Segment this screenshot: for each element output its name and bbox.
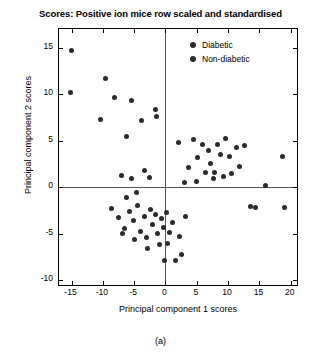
- y-tick-label: 0: [25, 180, 53, 190]
- data-point: [129, 98, 134, 103]
- data-point: [179, 252, 184, 257]
- y-axis-tick: [59, 141, 63, 142]
- data-point: [165, 241, 170, 246]
- data-point: [177, 234, 182, 239]
- data-point: [153, 212, 158, 217]
- data-point: [131, 218, 136, 223]
- data-point: [153, 107, 158, 112]
- plot-area: [58, 28, 298, 286]
- data-point: [242, 143, 247, 148]
- data-point: [227, 154, 232, 159]
- data-point: [144, 235, 149, 240]
- data-point: [234, 145, 239, 150]
- x-axis-tick: [72, 29, 73, 33]
- data-point: [200, 142, 205, 147]
- y-axis-tick: [293, 141, 297, 142]
- scatter-plot-figure: Scores: Positive ion mice row scaled and…: [0, 0, 321, 363]
- x-axis-tick: [103, 29, 104, 33]
- x-axis-tick: [291, 281, 292, 285]
- data-point: [68, 90, 73, 95]
- legend-marker-icon: [190, 42, 196, 48]
- data-point: [223, 136, 228, 141]
- data-point: [167, 230, 172, 235]
- data-point: [154, 114, 159, 119]
- data-point: [148, 207, 153, 212]
- legend-item-non-diabetic: Non-diabetic: [190, 52, 250, 66]
- data-point: [138, 229, 143, 234]
- data-point: [164, 210, 169, 215]
- data-point: [139, 118, 144, 123]
- data-point: [229, 171, 234, 176]
- data-point: [194, 179, 199, 184]
- horizontal-reference-line: [59, 187, 297, 188]
- y-axis-tick: [293, 280, 297, 281]
- x-tick-label: 15: [243, 287, 273, 297]
- data-point: [124, 134, 129, 139]
- legend: Diabetic Non-diabetic: [190, 38, 250, 66]
- legend-label-non-diabetic: Non-diabetic: [202, 54, 250, 64]
- data-point: [112, 95, 117, 100]
- data-point: [129, 176, 134, 181]
- x-tick-label: 5: [181, 287, 211, 297]
- data-point: [155, 231, 160, 236]
- data-point: [122, 226, 127, 231]
- data-point: [212, 170, 217, 175]
- x-axis-tick: [197, 29, 198, 33]
- legend-marker-icon: [190, 56, 196, 62]
- data-point: [176, 140, 181, 145]
- data-point: [135, 203, 140, 208]
- y-tick-label: 15: [25, 41, 53, 51]
- data-point: [145, 246, 150, 251]
- data-point: [134, 190, 139, 195]
- data-point: [124, 195, 129, 200]
- data-point: [211, 176, 216, 181]
- data-point: [120, 231, 125, 236]
- y-axis-tick: [59, 187, 63, 188]
- data-point: [161, 225, 166, 230]
- vertical-reference-line: [165, 29, 166, 285]
- x-axis-tick: [134, 29, 135, 33]
- y-axis-tick: [293, 94, 297, 95]
- data-point: [116, 215, 121, 220]
- y-tick-label: 10: [25, 87, 53, 97]
- y-axis-tick: [59, 94, 63, 95]
- data-point: [182, 180, 187, 185]
- data-point: [208, 161, 213, 166]
- data-point: [69, 48, 74, 53]
- x-axis-tick: [165, 281, 166, 285]
- data-point: [150, 222, 155, 227]
- x-axis-tick: [291, 29, 292, 33]
- data-point: [248, 204, 253, 209]
- data-point: [147, 175, 152, 180]
- y-tick-label: -5: [25, 227, 53, 237]
- y-tick-label: 5: [25, 134, 53, 144]
- legend-label-diabetic: Diabetic: [202, 40, 233, 50]
- data-point: [253, 205, 258, 210]
- data-point: [103, 76, 108, 81]
- y-tick-label: -10: [25, 273, 53, 283]
- x-axis-label: Principal component 1 scores: [58, 304, 298, 314]
- data-point: [280, 154, 285, 159]
- data-point: [191, 137, 196, 142]
- x-axis-tick: [228, 281, 229, 285]
- y-axis-tick: [59, 48, 63, 49]
- data-point: [237, 164, 242, 169]
- page-title: Scores: Positive ion mice row scaled and…: [0, 8, 321, 19]
- x-axis-tick: [197, 281, 198, 285]
- y-axis-tick: [293, 187, 297, 188]
- data-point: [173, 258, 178, 263]
- data-point: [206, 148, 211, 153]
- legend-item-diabetic: Diabetic: [190, 38, 250, 52]
- data-point: [157, 242, 162, 247]
- data-point: [221, 174, 226, 179]
- y-axis-tick: [59, 280, 63, 281]
- data-point: [109, 206, 114, 211]
- data-point: [159, 216, 164, 221]
- data-point: [98, 117, 103, 122]
- y-axis-tick: [59, 234, 63, 235]
- data-point: [119, 173, 124, 178]
- x-tick-label: 0: [149, 287, 179, 297]
- data-point: [127, 209, 132, 214]
- x-axis-tick: [72, 281, 73, 285]
- x-tick-label: -15: [56, 287, 86, 297]
